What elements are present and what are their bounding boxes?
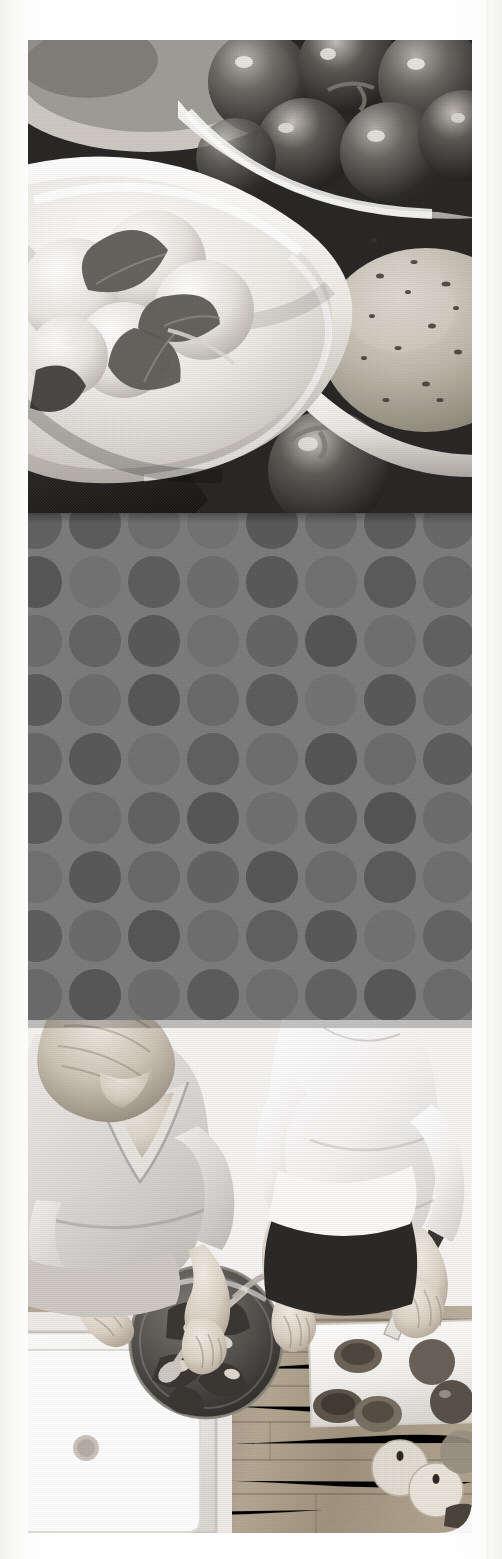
- polka-dot-pattern-panel: [28, 513, 472, 1020]
- printed-content-column: [28, 40, 472, 1533]
- bottom-photo-band: [28, 1020, 472, 1533]
- scanned-page: [0, 0, 502, 1559]
- food-still-life-photo: [28, 40, 472, 513]
- top-photo-band: [28, 40, 472, 513]
- kitchen-overhead-photo: [28, 1020, 472, 1533]
- dot-pattern-band: [28, 513, 472, 1020]
